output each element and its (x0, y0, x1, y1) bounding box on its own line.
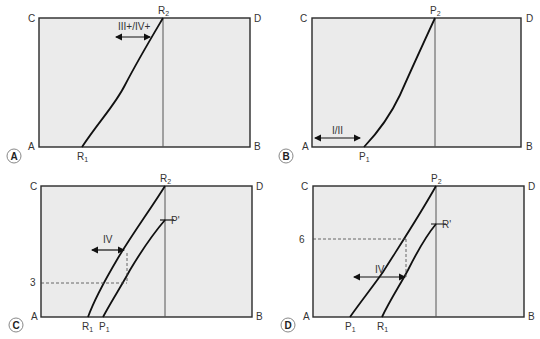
panel-c-p1-label: P1 (99, 321, 110, 333)
panel-b-p1-label: P1 (359, 151, 370, 163)
svg-text:A: A (11, 151, 18, 162)
panel-d-badge: D (281, 318, 295, 332)
svg-text:D: D (285, 320, 292, 331)
panel-c-corner-b: B (256, 311, 263, 322)
panel-d-corner-c: C (301, 181, 308, 192)
panel-c-corner-a: A (31, 311, 38, 322)
panel-a-corner-d: D (254, 13, 261, 24)
panel-c-r2-label: R2 (160, 173, 171, 185)
panel-d: IV 6 C D A B P1 R1 P2 R' D (281, 173, 535, 333)
svg-text:B: B (283, 151, 290, 162)
panel-d-p1-label: P1 (345, 321, 356, 333)
diagram-canvas: III+/IV+ C D A B R1 R2 A I/II C D A B P1… (0, 0, 540, 339)
panel-b: I/II C D A B P1 P2 B (279, 5, 533, 163)
panel-c: IV 3 C D A B R1 P1 R2 P' C (9, 173, 263, 333)
panel-b-p2-label: P2 (430, 5, 441, 17)
panel-b-corner-c: C (300, 13, 307, 24)
panel-d-r1-label: R1 (377, 321, 388, 333)
panel-d-corner-b: B (528, 311, 535, 322)
panel-b-arrow-label: I/II (332, 125, 343, 136)
panel-d-corner-d: D (528, 181, 535, 192)
panel-b-corner-d: D (526, 13, 533, 24)
panel-c-r1-label: R1 (82, 321, 93, 333)
panel-b-badge: B (279, 149, 293, 163)
panel-b-corner-a: A (302, 141, 309, 152)
panel-c-p-prime-label: P' (171, 215, 180, 226)
panel-c-arrow-label: IV (103, 234, 113, 245)
panel-d-r-prime-label: R' (442, 219, 451, 230)
panel-a-r1-label: R1 (77, 151, 88, 163)
panel-d-p2-label: P2 (431, 173, 442, 185)
svg-text:C: C (13, 320, 20, 331)
panel-c-corner-c: C (30, 181, 37, 192)
panel-c-badge: C (9, 318, 23, 332)
panel-b-corner-b: B (526, 141, 533, 152)
panel-d-arrow-label: IV (375, 264, 385, 275)
panel-c-level-label: 3 (30, 277, 36, 288)
panel-a-arrow-label: III+/IV+ (118, 21, 150, 32)
panel-a-corner-c: C (28, 13, 35, 24)
panel-a-badge: A (7, 149, 21, 163)
panel-a-corner-a: A (28, 141, 35, 152)
panel-b-frame (312, 18, 521, 147)
panel-a: III+/IV+ C D A B R1 R2 A (7, 5, 261, 163)
panel-a-r2-label: R2 (158, 5, 169, 17)
panel-d-level-label: 6 (299, 234, 305, 245)
panel-a-corner-b: B (254, 141, 261, 152)
panel-d-corner-a: A (303, 311, 310, 322)
panel-c-corner-d: D (256, 181, 263, 192)
panel-c-frame (41, 186, 252, 317)
